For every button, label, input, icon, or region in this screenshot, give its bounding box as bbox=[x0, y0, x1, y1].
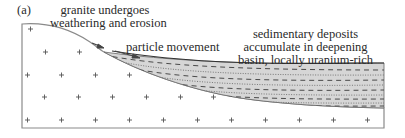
granite-label-line-2: weathering and erosion bbox=[50, 17, 160, 30]
sediment-label-line-3: basin, locally uranium-rich bbox=[238, 54, 373, 67]
particle-movement-label: particle movement bbox=[126, 41, 219, 54]
sediment-deposits-label: sedimentary deposits accumulate in deepe… bbox=[238, 28, 373, 67]
granite-weathering-label: granite undergoes weathering and erosion bbox=[50, 4, 160, 30]
panel-label: (a) bbox=[17, 4, 31, 17]
